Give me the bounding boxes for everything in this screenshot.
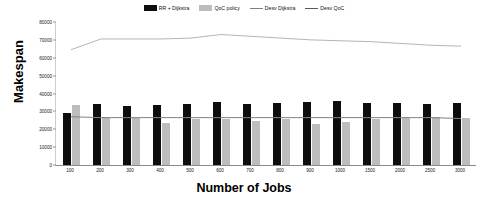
x-axis-tick-label: 400 [145, 166, 175, 178]
y-axis-title: Makespan [11, 17, 26, 127]
bar [273, 103, 281, 165]
bar [342, 122, 350, 165]
x-axis-tick-label: 1000 [325, 166, 355, 178]
x-axis-tick-label: 100 [55, 166, 85, 178]
x-axis-tick-label: 2000 [385, 166, 415, 178]
bar [402, 118, 410, 165]
legend-label: QoC policy [214, 5, 239, 12]
bar-group [356, 22, 386, 165]
bar [453, 103, 461, 165]
legend-item: QoC policy [199, 3, 239, 13]
bar-group [56, 22, 86, 165]
bar [132, 118, 140, 165]
y-axis-tick-label: 50000 [39, 73, 52, 78]
bar-group [176, 22, 206, 165]
plot-area: 0100002000030000400005000060000700008000… [55, 22, 476, 166]
bar-group [326, 22, 356, 165]
x-axis-tick-label: 3000 [445, 166, 475, 178]
bar [393, 103, 401, 165]
y-axis-tick-label: 70000 [39, 37, 52, 42]
legend-label: Desv QoC [320, 5, 344, 12]
bar [153, 105, 161, 165]
legend-item: Desv QoC [305, 3, 344, 13]
bar-group [86, 22, 116, 165]
bar [102, 117, 110, 165]
bar [243, 104, 251, 165]
bar-group [416, 22, 446, 165]
bar [312, 124, 320, 165]
x-axis-tick-label: 2500 [415, 166, 445, 178]
legend-item: Desv Dijkstra [250, 3, 296, 13]
bar-group [266, 22, 296, 165]
x-axis-ticks: 1002003004005006007008009001000150020002… [55, 166, 475, 178]
bar-group [236, 22, 266, 165]
x-axis-tick-label: 800 [265, 166, 295, 178]
y-axis-tick-label: 0 [49, 163, 52, 168]
makespan-chart: RR + DijkstraQoC policyDesv DijkstraDesv… [0, 0, 488, 202]
bar [432, 117, 440, 165]
bar-group [116, 22, 146, 165]
bar [222, 119, 230, 165]
bar [192, 119, 200, 165]
bar-groups [56, 22, 476, 165]
bar [72, 105, 80, 165]
x-axis-tick-label: 300 [115, 166, 145, 178]
y-axis-tick-label: 60000 [39, 55, 52, 60]
y-axis-tick-label: 40000 [39, 91, 52, 96]
y-axis-tick-label: 30000 [39, 109, 52, 114]
legend-item: RR + Dijkstra [144, 3, 190, 13]
bar-group [146, 22, 176, 165]
bar [462, 118, 470, 165]
legend-swatch-icon [144, 5, 157, 11]
y-axis-tick-label: 20000 [39, 127, 52, 132]
y-axis-tick-label: 10000 [39, 145, 52, 150]
x-axis-tick-label: 600 [205, 166, 235, 178]
bar [252, 121, 260, 165]
bar-group [206, 22, 236, 165]
legend-label: Desv Dijkstra [265, 5, 296, 12]
bar [423, 104, 431, 165]
bar [123, 106, 131, 165]
x-axis-tick-label: 200 [85, 166, 115, 178]
legend-swatch-icon [199, 5, 212, 11]
x-axis-tick-label: 900 [295, 166, 325, 178]
bar [303, 102, 311, 165]
x-axis-title: Number of Jobs [0, 181, 488, 195]
y-axis-tick-label: 80000 [39, 20, 52, 25]
bar [183, 104, 191, 165]
bar-group [296, 22, 326, 165]
bar [333, 101, 341, 165]
legend-label: RR + Dijkstra [159, 5, 190, 12]
bar [282, 119, 290, 165]
bar [162, 123, 170, 165]
bar-group [386, 22, 416, 165]
legend-line-icon [250, 8, 263, 9]
x-axis-tick-label: 500 [175, 166, 205, 178]
legend-line-icon [305, 8, 318, 9]
x-axis-tick-label: 700 [235, 166, 265, 178]
bar [213, 102, 221, 165]
bar-group [446, 22, 476, 165]
x-axis-tick-label: 1500 [355, 166, 385, 178]
bar [372, 119, 380, 165]
bar [363, 103, 371, 165]
chart-legend: RR + DijkstraQoC policyDesv DijkstraDesv… [0, 3, 488, 13]
bar [93, 104, 101, 165]
bar [63, 113, 71, 165]
